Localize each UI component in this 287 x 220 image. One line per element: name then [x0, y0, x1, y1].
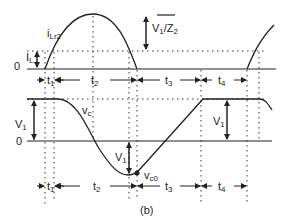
bottom-zero-label: 0	[16, 136, 22, 147]
waveform-diagram	[0, 0, 287, 220]
il-label: IL	[26, 52, 34, 65]
figure-caption: (b)	[140, 205, 153, 216]
interval-t4-top: t4	[218, 75, 226, 88]
vc0-label: vc0	[144, 170, 158, 183]
interval-t3-top: t3	[165, 75, 173, 88]
interval-t1-bottom: t1	[47, 181, 55, 194]
ilr2-curve	[45, 14, 137, 69]
interval-t2-bottom: t2	[93, 181, 101, 194]
ilr2-label: iLr2	[47, 28, 61, 41]
vc-curve	[27, 99, 272, 175]
voltage-plot	[27, 99, 272, 176]
interval-t2-top: t2	[91, 75, 99, 88]
interval-t1-top: t1	[47, 75, 55, 88]
vc-label: vc	[82, 105, 92, 118]
v1-middle-label: V1	[115, 152, 127, 165]
peak-label: V1/Z2	[152, 23, 178, 36]
interval-t3-bottom: t3	[165, 181, 173, 194]
v1-left-label: V1	[15, 119, 27, 132]
top-zero-label: 0	[14, 61, 20, 72]
ilr2-rise-curve	[247, 25, 274, 69]
v1-right-label: V1	[213, 116, 225, 129]
interval-t4-bottom: t4	[218, 181, 226, 194]
vc0-point	[135, 171, 140, 176]
